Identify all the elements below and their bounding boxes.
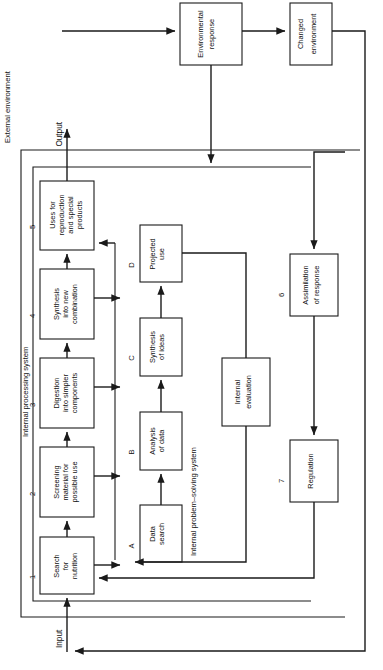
process-box-3-label-line-1: into simpler	[61, 374, 70, 412]
problem-box-a-number: A	[127, 543, 136, 549]
flowchart-canvas: External environment Internal processing…	[0, 0, 383, 670]
problem-box-d-label-line-1: use	[157, 248, 166, 260]
changed-environment-label-line-0: Changed	[296, 19, 305, 49]
process-box-5-label-line-3: products	[75, 201, 84, 230]
process-box-5-number: 5	[28, 225, 37, 229]
process-box-1-label-line-1: for	[61, 561, 70, 570]
problem-box-b-label-line-1: of data	[157, 429, 166, 452]
problem-box-d-number: D	[127, 262, 136, 268]
process-box-4-label-line-2: combination	[70, 284, 79, 324]
process-box-2-label-line-0: Screening	[52, 465, 61, 498]
process-box-1-label-line-0: Search	[52, 554, 61, 577]
process-box-2-label-line-1: material for	[61, 463, 70, 501]
response-box-6-label-line-0: Assimilation	[301, 265, 310, 304]
problem-box-c-label-line-1: of ideas	[157, 334, 166, 360]
response-box-7-label-line-0: Regulation	[306, 453, 315, 488]
process-box-3-number: 3	[28, 403, 37, 407]
internal-evaluation-label-line-0: Internal	[233, 379, 242, 404]
process-box-2-number: 2	[28, 492, 37, 496]
process-box-2-label-line-2: possible use	[70, 461, 79, 502]
process-box-1-number: 1	[28, 575, 37, 579]
problem-box-b-label-line-0: Analysis	[148, 427, 157, 455]
internal-evaluation-label-line-1: evaluation	[244, 375, 253, 409]
process-box-1-label-line-2: nutrition	[70, 553, 79, 579]
flowchart-diagram: External environment Internal processing…	[0, 0, 383, 670]
problem-box-a-label-line-0: Data	[148, 525, 157, 542]
problem-box-a-label-line-1: search	[157, 523, 166, 545]
arrow-boxd-to-internal-evaluation	[182, 253, 246, 358]
process-box-5-label-line-1: reproduction	[57, 194, 66, 235]
environmental-response-label-line-1: response	[207, 19, 216, 49]
feedback-changed-environment-to-input	[75, 31, 365, 651]
problem-box-d-label-line-0: Projected	[148, 238, 157, 269]
process-box-3-label-line-2: components	[70, 373, 79, 414]
problem-box-c-number: C	[127, 355, 136, 361]
input-label: Input	[55, 629, 64, 648]
arrow-response-box-7-to-process-box-1	[99, 502, 314, 578]
process-box-4-label-line-0: Synthesis	[52, 288, 61, 320]
zone-label-external-environment: External environment	[3, 70, 12, 143]
process-box-4-number: 4	[28, 314, 37, 318]
arrow-external-to-response-box-6	[314, 152, 345, 249]
process-box-4-label-line-1: into new	[61, 290, 70, 318]
problem-box-c-label-line-0: Synthesis	[148, 331, 157, 363]
response-box-6-label-line-1: of response	[312, 266, 321, 305]
process-box-5-label-line-0: Uses for	[48, 201, 57, 229]
environmental-response-label-line-0: Environmental	[196, 10, 205, 58]
changed-environment-label-line-1: environment	[309, 14, 318, 55]
response-box-7-number: 7	[277, 479, 286, 483]
zone-label-internal-problem-solving: Internal problem–solving system	[189, 447, 198, 556]
problem-box-b-number: B	[127, 449, 136, 454]
process-box-5-label-line-2: and special	[66, 196, 75, 234]
zone-label-internal-processing: Internal processing system	[21, 347, 30, 437]
output-label: Output	[55, 121, 64, 146]
process-box-3-label-line-0: Digestion	[52, 378, 61, 409]
response-box-6-number: 6	[277, 293, 286, 297]
